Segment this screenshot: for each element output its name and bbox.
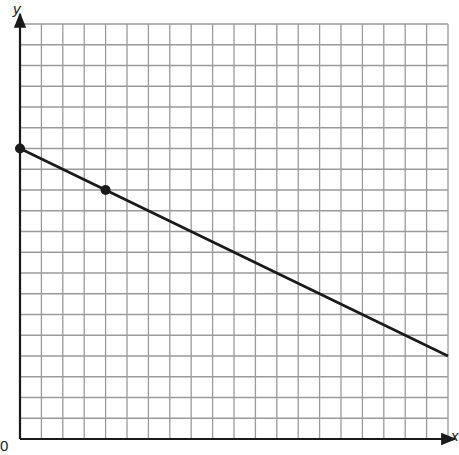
x-axis-label: x bbox=[451, 427, 459, 444]
axes bbox=[20, 14, 455, 439]
grid bbox=[20, 24, 448, 439]
y-axis-label: y bbox=[13, 0, 21, 17]
origin-label: 0 bbox=[0, 437, 8, 454]
data-point bbox=[15, 144, 25, 154]
data-point bbox=[101, 185, 111, 195]
coordinate-plane bbox=[0, 0, 459, 455]
